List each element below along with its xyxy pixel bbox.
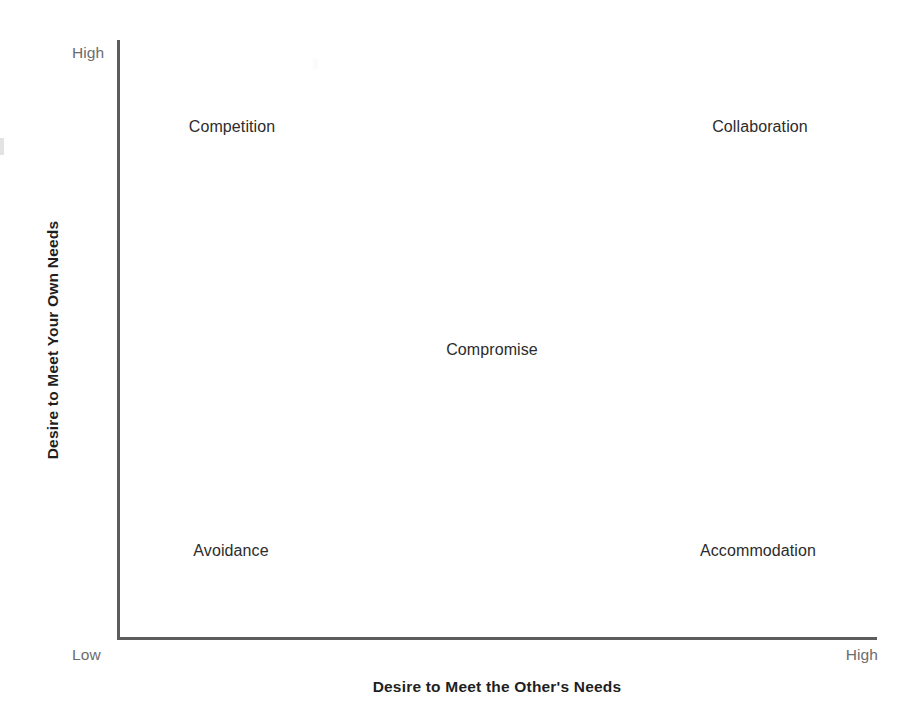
quadrant-label-collaboration: Collaboration: [712, 118, 808, 136]
quadrant-label-competition: Competition: [189, 118, 275, 136]
conflict-styles-quadrant-chart: High Low High Desire to Meet Your Own Ne…: [0, 0, 912, 722]
quadrant-label-compromise: Compromise: [446, 341, 538, 359]
y-axis-high-label: High: [72, 44, 104, 62]
x-axis-line: [117, 637, 877, 640]
scan-artifact: [0, 138, 4, 155]
y-axis-title: Desire to Meet Your Own Needs: [41, 40, 65, 640]
x-axis-low-label: Low: [72, 646, 101, 664]
quadrant-label-avoidance: Avoidance: [193, 542, 268, 560]
quadrant-label-accommodation: Accommodation: [700, 542, 816, 560]
x-axis-title: Desire to Meet the Other's Needs: [117, 678, 877, 696]
y-axis-line: [117, 40, 120, 640]
x-axis-high-label: High: [832, 646, 878, 664]
scan-artifact: [313, 58, 318, 70]
